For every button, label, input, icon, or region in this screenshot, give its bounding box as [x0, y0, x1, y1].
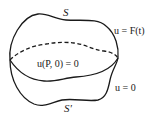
surface-s-curve: [10, 14, 118, 60]
label-s-prime: S': [64, 102, 73, 114]
label-u-equals-f-t: u = F(t): [114, 25, 145, 37]
label-s: S: [63, 6, 69, 18]
label-initial-condition: u(P, 0) = 0: [37, 58, 79, 70]
label-u-equals-zero: u = 0: [115, 82, 136, 93]
diagram-canvas: S u = F(t) u(P, 0) = 0 u = 0 S': [0, 0, 159, 117]
